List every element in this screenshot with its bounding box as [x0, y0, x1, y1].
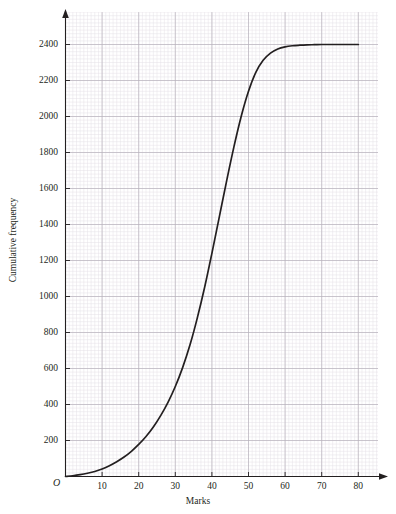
x-tick-label: 40: [207, 482, 217, 492]
y-axis-arrowhead: [62, 9, 69, 18]
chart-canvas: [0, 0, 396, 514]
cumulative-frequency-chart: 2004006008001000120014001600180020002200…: [0, 0, 396, 514]
y-tick-label: 600: [28, 364, 58, 374]
y-tick-label: 1400: [28, 220, 58, 230]
x-tick-label: 50: [244, 482, 254, 492]
x-axis-arrowhead: [379, 473, 388, 480]
y-tick-label: 2400: [28, 40, 58, 50]
y-tick-label: 1800: [28, 148, 58, 158]
y-tick-label: 2200: [28, 76, 58, 86]
x-axis-title: Marks: [186, 497, 210, 507]
y-tick-label: 400: [28, 400, 58, 410]
y-tick-label: 200: [28, 436, 58, 446]
origin-label: O: [53, 478, 60, 488]
x-tick-label: 70: [317, 482, 327, 492]
y-tick-label: 1600: [28, 184, 58, 194]
x-tick-label: 10: [97, 482, 107, 492]
x-tick-label: 20: [134, 482, 144, 492]
x-tick-label: 30: [171, 482, 181, 492]
y-tick-label: 1000: [28, 292, 58, 302]
minor-gridlines: [66, 12, 388, 476]
x-tick-label: 80: [354, 482, 364, 492]
y-tick-label: 800: [28, 328, 58, 338]
y-tick-label: 2000: [28, 112, 58, 122]
x-tick-label: 60: [280, 482, 290, 492]
y-axis-title: Cumulative frequency: [9, 198, 19, 283]
y-tick-label: 1200: [28, 256, 58, 266]
